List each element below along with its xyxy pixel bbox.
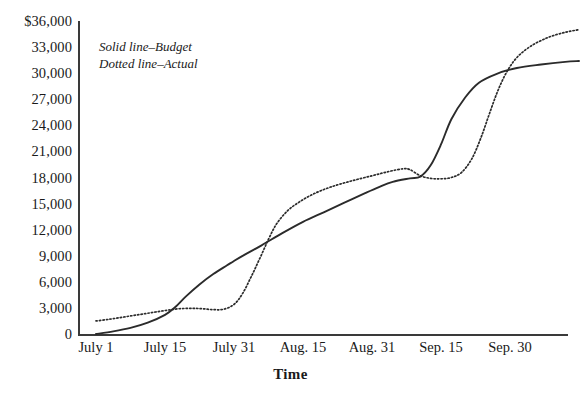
series-line-budget — [96, 61, 579, 334]
plot-area — [0, 0, 581, 403]
line-chart: $36,00033,00030,00027,00024,00021,00018,… — [0, 0, 581, 403]
series-line-actual — [96, 30, 579, 321]
